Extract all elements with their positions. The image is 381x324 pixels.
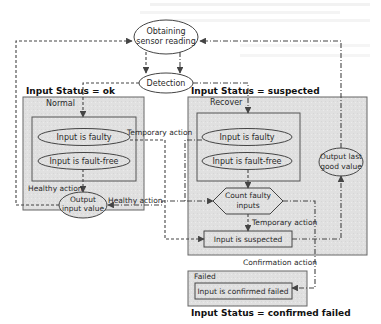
svg-text:Input is fault-free: Input is fault-free — [50, 157, 119, 166]
node-output-input-value: Output input value — [59, 192, 107, 218]
svg-text:sensor reading: sensor reading — [136, 37, 195, 46]
svg-text:Input is fault-free: Input is fault-free — [213, 157, 282, 166]
status-label-ok: Input Status = ok — [26, 86, 116, 96]
svg-text:Input is suspected: Input is suspected — [214, 235, 283, 244]
svg-text:Count faulty: Count faulty — [225, 191, 272, 200]
node-obtaining-sensor-reading: Obtaining sensor reading — [134, 20, 198, 54]
svg-text:inputs: inputs — [236, 201, 259, 210]
svg-text:Obtaining: Obtaining — [146, 27, 185, 36]
edge-label-temporary-action-1: Temporary action — [126, 128, 192, 137]
svg-text:Input is faulty: Input is faulty — [56, 133, 111, 142]
state-name-normal: Normal — [46, 99, 75, 108]
node-recover-fault-free: Input is fault-free — [202, 153, 292, 170]
edge-label-healthy-action-2: Healthy action — [108, 196, 163, 205]
svg-text:Output: Output — [70, 195, 96, 204]
state-diagram: Input Status = ok Normal Input is faulty… — [0, 0, 381, 324]
svg-text:Output last: Output last — [320, 152, 362, 161]
status-label-failed: Input Status = confirmed failed — [191, 308, 351, 318]
node-ok-fault-free: Input is fault-free — [38, 153, 130, 170]
edge-label-confirmation-action: Confirmation action — [243, 258, 317, 267]
node-output-last-good-value: Output last good value — [319, 148, 363, 176]
node-recover-faulty: Input is faulty — [202, 129, 292, 146]
svg-text:Detection: Detection — [147, 79, 186, 88]
status-label-suspected: Input Status = suspected — [191, 86, 320, 96]
svg-text:input value: input value — [62, 204, 105, 213]
node-input-confirmed-failed: Input is confirmed failed — [197, 287, 288, 296]
svg-text:good value: good value — [320, 162, 362, 171]
node-detection: Detection — [139, 73, 193, 93]
state-name-recover: Recover — [210, 98, 243, 107]
node-ok-faulty: Input is faulty — [38, 129, 130, 146]
node-count-faulty-inputs: Count faulty inputs — [213, 188, 283, 214]
edge-label-healthy-action-1: Healthy action — [28, 184, 83, 193]
state-name-failed: Failed — [194, 272, 216, 281]
node-input-suspected: Input is suspected — [204, 231, 292, 247]
edge-label-temporary-action-2: Temporary action — [251, 218, 317, 227]
svg-text:Input is faulty: Input is faulty — [219, 133, 274, 142]
